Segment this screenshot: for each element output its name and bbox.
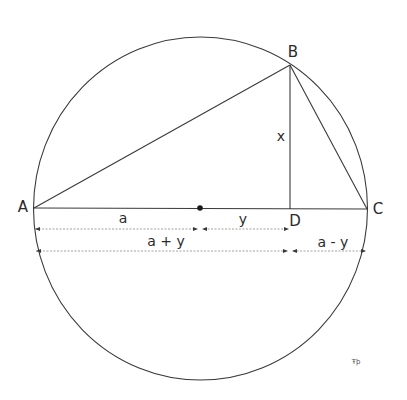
label-segment-a: a [119, 211, 128, 225]
arrowhead-icon [202, 227, 207, 231]
segment-bc [290, 65, 367, 209]
label-segment-y: y [239, 212, 247, 226]
geometry-diagram [0, 0, 407, 400]
label-segment-x: x [277, 129, 285, 143]
label-point-b: B [288, 45, 298, 60]
arrowhead-icon [283, 249, 288, 253]
label-segment-a-minus-y: a - y [318, 235, 349, 249]
center-point [197, 205, 203, 211]
arrowhead-icon [361, 249, 366, 253]
segment-ab [34, 65, 290, 208]
label-point-a: A [18, 200, 28, 215]
arrowhead-icon [292, 249, 297, 253]
label-segment-a-plus-y: a + y [147, 234, 185, 248]
arrowhead-icon [193, 227, 198, 231]
label-point-c: C [373, 202, 383, 217]
watermark: Ŧþ [352, 358, 361, 366]
label-point-d: D [289, 214, 301, 229]
arrowhead-icon [35, 227, 40, 231]
